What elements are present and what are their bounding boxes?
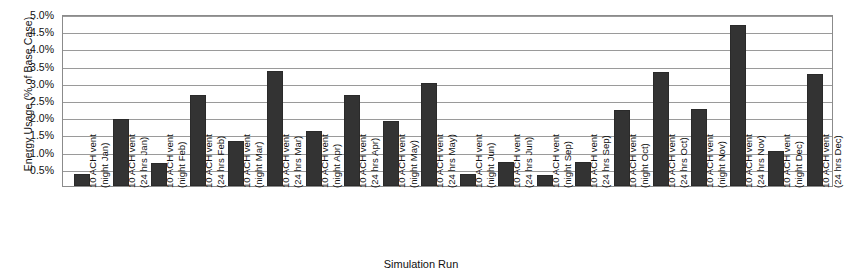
x-tick-label-line-2: (24 hrs Jan) [137,118,149,188]
x-axis-tick-label: 10 ACH vent(24 hrs Jan) [126,118,152,188]
x-tick-label-line-1: 10 ACH vent [511,118,523,188]
x-tick-label-line-2: (24 hrs Mar) [292,118,304,188]
x-tick-label-line-2: (24 hrs Oct) [677,118,689,188]
x-tick-label-line-2: (24 hrs Nov) [754,118,766,188]
x-tick-label-line-2: (night Mar) [253,118,265,188]
x-tick-label-line-2: (night Feb) [176,118,188,188]
x-tick-label-line-1: 10 ACH vent [588,118,600,188]
x-tick-label-line-1: 10 ACH vent [319,118,331,188]
x-axis-tick-label: 10 ACH vent(24 hrs Sep) [588,118,614,188]
x-tick-label-line-2: (24 hrs Jun) [523,118,535,188]
x-axis-tick-label: 10 ACH vent(24 hrs May) [434,118,460,188]
x-axis-tick-label: 10 ACH vent(night Mar) [241,118,267,188]
x-tick-label-line-1: 10 ACH vent [280,118,292,188]
y-axis-tick-label: 2.5% [30,96,54,106]
x-tick-label-line-1: 10 ACH vent [164,118,176,188]
x-tick-label-line-2: (night Jan) [99,118,111,188]
y-axis-tick-label: 1.5% [30,130,54,140]
x-tick-label-line-2: (night Sep) [561,118,573,188]
x-axis-tick-label: 10 ACH vent(night Apr) [319,118,345,188]
y-axis-tick-label: 2.0% [30,113,54,123]
y-axis-tick-label: 3.5% [30,62,54,72]
x-tick-label-line-1: 10 ACH vent [627,118,639,188]
y-axis-tick-label: 1.0% [30,148,54,158]
x-tick-label-line-1: 10 ACH vent [743,118,755,188]
y-axis-tick-labels: 5.0%4.5%4.0%3.5%3.0%2.5%2.0%1.5%1.0%0.5% [0,15,58,187]
x-tick-label-line-1: 10 ACH vent [434,118,446,188]
x-axis-tick-label: 10 ACH vent(night May) [396,118,422,188]
x-tick-label-line-2: (night Dec) [793,118,805,188]
y-axis-tick-label: 3.0% [30,79,54,89]
x-tick-label-line-1: 10 ACH vent [357,118,369,188]
x-axis-tick-label: 10 ACH vent(night Nov) [704,118,730,188]
x-axis-tick-label: 10 ACH vent(night Dec) [781,118,807,188]
x-axis-tick-label: 10 ACH vent(24 hrs Feb) [203,118,229,188]
x-axis-tick-label: 10 ACH vent(24 hrs Oct) [666,118,692,188]
x-tick-label-line-1: 10 ACH vent [126,118,138,188]
x-axis-tick-label: 10 ACH vent(night Jan) [87,118,113,188]
x-tick-label-line-2: (night Oct) [639,118,651,188]
x-axis-tick-label: 10 ACH vent(24 hrs Nov) [743,118,769,188]
y-axis-tick-label: 4.0% [30,44,54,54]
x-tick-label-line-2: (night Jun) [484,118,496,188]
x-tick-label-line-2: (night Apr) [330,118,342,188]
x-axis-tick-label: 10 ACH vent(24 hrs Apr) [357,118,383,188]
x-tick-label-line-1: 10 ACH vent [87,118,99,188]
x-tick-label-line-2: (24 hrs Apr) [369,118,381,188]
x-axis-tick-label: 10 ACH vent(24 hrs Mar) [280,118,306,188]
x-tick-label-line-2: (24 hrs May) [446,118,458,188]
x-axis-tick-labels: 10 ACH vent(night Jan)10 ACH vent(24 hrs… [62,188,833,250]
x-tick-label-line-1: 10 ACH vent [473,118,485,188]
x-tick-label-line-1: 10 ACH vent [666,118,678,188]
x-tick-label-line-1: 10 ACH vent [781,118,793,188]
x-tick-label-line-1: 10 ACH vent [396,118,408,188]
x-axis-tick-label: 10 ACH vent(24 hrs Dec) [820,118,846,188]
x-axis-title: Simulation Run [0,258,842,270]
x-tick-label-line-1: 10 ACH vent [704,118,716,188]
x-tick-label-line-2: (night May) [407,118,419,188]
y-axis-tick-label: 0.5% [30,165,54,175]
x-tick-label-line-1: 10 ACH vent [550,118,562,188]
x-tick-label-line-1: 10 ACH vent [241,118,253,188]
x-tick-label-line-2: (24 hrs Sep) [600,118,612,188]
y-axis-tick-label: 5.0% [30,10,54,20]
y-axis-tick-label: 4.5% [30,27,54,37]
x-axis-tick-label: 10 ACH vent(night Sep) [550,118,576,188]
x-tick-label-line-1: 10 ACH vent [203,118,215,188]
x-tick-label-line-1: 10 ACH vent [820,118,832,188]
x-axis-tick-label: 10 ACH vent(night Jun) [473,118,499,188]
x-tick-label-line-2: (24 hrs Feb) [215,118,227,188]
x-tick-label-line-2: (night Nov) [716,118,728,188]
x-axis-tick-label: 10 ACH vent(night Oct) [627,118,653,188]
x-tick-label-line-2: (24 hrs Dec) [831,118,843,188]
x-axis-tick-label: 10 ACH vent(night Feb) [164,118,190,188]
x-axis-tick-label: 10 ACH vent(24 hrs Jun) [511,118,537,188]
